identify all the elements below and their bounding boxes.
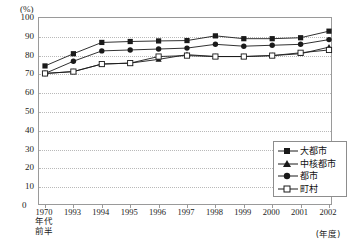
data-point — [156, 46, 161, 51]
legend-item-3[interactable]: 町村 — [278, 183, 343, 196]
y-tick-label: 30 — [0, 144, 34, 153]
open-square-icon — [278, 183, 298, 195]
x-tick-label: 1993 — [64, 207, 81, 217]
x-tick-label: 2002 — [320, 207, 337, 217]
data-point — [99, 48, 104, 53]
y-tick-label: 70 — [0, 69, 34, 78]
data-point — [71, 51, 76, 56]
data-point — [241, 54, 246, 59]
y-tick-label: 80 — [0, 50, 34, 59]
data-point — [156, 54, 161, 59]
filled-circle-icon — [278, 170, 298, 182]
x-tick-label: 1970年代前半 — [35, 207, 53, 236]
y-tick-label: 40 — [0, 125, 34, 134]
legend-label-1: 中核都市 — [298, 158, 336, 170]
chart-container: (%) 1009080706050403020100 0 1970年代前半199… — [0, 0, 357, 248]
y-axis-tick-labels: 1009080706050403020100 — [0, 17, 34, 205]
data-point — [298, 50, 303, 55]
data-point — [326, 47, 331, 52]
y-tick-label: 90 — [0, 31, 34, 40]
legend-item-2[interactable]: 都市 — [278, 170, 343, 183]
legend-item-0[interactable]: 大都市 — [278, 145, 343, 158]
data-point — [99, 61, 104, 66]
data-point — [42, 71, 47, 76]
data-point — [128, 47, 133, 52]
data-point — [270, 43, 275, 48]
data-point — [241, 36, 246, 41]
x-axis-unit-label: (年度) — [316, 229, 341, 239]
data-point — [99, 40, 104, 45]
data-point — [298, 42, 303, 47]
data-point — [71, 59, 76, 64]
x-tick-label: 2001 — [291, 207, 308, 217]
data-point — [42, 63, 47, 68]
data-point — [156, 38, 161, 43]
x-tick-label: 2000 — [263, 207, 280, 217]
x-tick-label: 1998 — [206, 207, 223, 217]
x-tick-label: 1997 — [178, 207, 195, 217]
x-tick-label: 1999 — [234, 207, 251, 217]
x-tick-label: 1994 — [92, 207, 109, 217]
legend-label-0: 大都市 — [298, 145, 327, 157]
data-point — [270, 53, 275, 58]
x-axis-tick-labels: 1970年代前半19931994199519961997199819992000… — [0, 207, 357, 248]
y-tick-label: 50 — [0, 107, 34, 116]
data-point — [71, 69, 76, 74]
data-point — [298, 35, 303, 40]
data-point — [241, 44, 246, 49]
y-tick-label: 100 — [0, 13, 34, 22]
x-tick-label: 1995 — [121, 207, 138, 217]
data-point — [184, 45, 189, 50]
data-point — [326, 37, 331, 42]
x-tick-label: 1996 — [149, 207, 166, 217]
y-tick-label: 60 — [0, 88, 34, 97]
legend-label-2: 都市 — [298, 170, 318, 182]
data-point — [128, 39, 133, 44]
filled-square-icon — [278, 145, 298, 157]
filled-triangle-icon — [278, 158, 298, 170]
data-point — [213, 33, 218, 38]
data-point — [270, 36, 275, 41]
data-point — [128, 61, 133, 66]
legend-label-3: 町村 — [298, 183, 318, 195]
chart-legend: 大都市 中核都市 都市 町村 — [273, 141, 347, 197]
data-point — [184, 38, 189, 43]
legend-item-1[interactable]: 中核都市 — [278, 158, 343, 171]
data-point — [213, 54, 218, 59]
y-tick-label: 20 — [0, 163, 34, 172]
y-tick-label: 10 — [0, 182, 34, 191]
data-point — [184, 53, 189, 58]
data-point — [326, 29, 331, 34]
data-point — [213, 42, 218, 47]
